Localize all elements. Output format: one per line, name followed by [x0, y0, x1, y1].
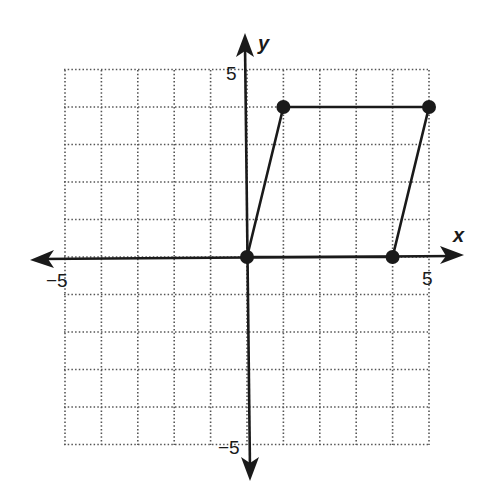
- vertex-point-icon: [276, 100, 290, 114]
- x-axis-label: x: [452, 224, 465, 246]
- y-axis-label: y: [257, 32, 270, 54]
- vertex-point-icon: [240, 250, 254, 264]
- x-min-tick-label: −5: [46, 270, 68, 291]
- coordinate-plane: x y −5 5 5 −5: [0, 0, 487, 500]
- y-min-tick-label: −5: [218, 437, 240, 458]
- y-max-tick-label: 5: [226, 63, 237, 84]
- x-max-tick-label: 5: [422, 268, 433, 289]
- vertex-point-icon: [422, 100, 436, 114]
- vertex-point-icon: [386, 250, 400, 264]
